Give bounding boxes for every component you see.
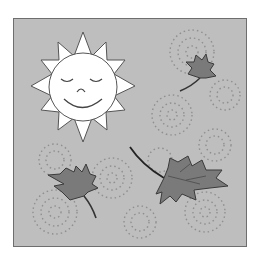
sun xyxy=(31,32,135,142)
maple-leaf-bottom-right-icon xyxy=(130,147,228,204)
maple-leaf-bottom-left-icon xyxy=(48,164,98,218)
illustration xyxy=(0,0,255,259)
